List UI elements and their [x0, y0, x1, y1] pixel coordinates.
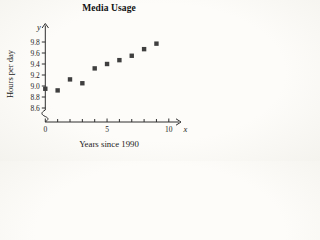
- y-tick-label: 9.8: [30, 38, 40, 47]
- x-axis-label: Years since 1990: [24, 139, 194, 149]
- x-tick-label: 0: [43, 125, 47, 134]
- x-axis-letter: x: [183, 124, 188, 134]
- scatter-plot: 8.68.89.09.29.49.69.80510yx: [0, 0, 204, 161]
- y-tick-label: 9.0: [30, 82, 40, 91]
- y-tick-label: 8.8: [30, 93, 40, 102]
- data-point: [43, 87, 47, 91]
- y-tick-label: 9.2: [30, 71, 40, 80]
- y-axis-letter: y: [36, 22, 41, 32]
- data-point: [105, 62, 109, 66]
- data-point: [130, 54, 134, 58]
- x-tick-label: 5: [105, 125, 109, 134]
- data-point: [55, 88, 59, 92]
- y-tick-label: 9.6: [30, 49, 40, 58]
- data-point: [117, 58, 121, 62]
- y-tick-label: 9.4: [30, 60, 40, 69]
- data-point: [142, 47, 146, 51]
- data-point: [154, 41, 158, 45]
- data-point: [93, 66, 97, 70]
- media-usage-scatter-figure: Media Usage Hours per day 8.68.89.09.29.…: [0, 0, 204, 161]
- y-tick-label: 8.6: [30, 104, 40, 113]
- data-point: [68, 77, 72, 81]
- x-tick-label: 10: [165, 125, 173, 134]
- data-point: [80, 81, 84, 85]
